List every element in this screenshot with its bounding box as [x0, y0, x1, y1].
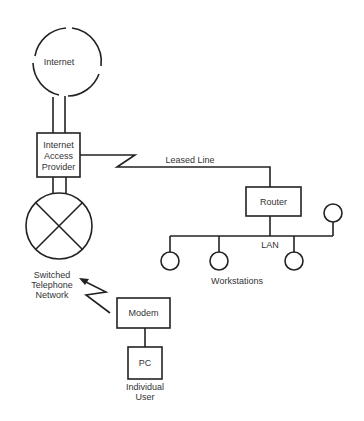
dialup-lightning-arrow: [79, 278, 110, 313]
router-node: Router: [246, 187, 301, 216]
iap-label-line-1: Internet: [43, 140, 74, 150]
pc-label: PC: [139, 358, 152, 368]
svg-text:User: User: [135, 392, 154, 402]
lan-label: LAN: [261, 240, 279, 250]
internet-arc-3: [68, 74, 99, 96]
internet-arc-1: [35, 28, 66, 56]
svg-text:Individual: Individual: [126, 382, 164, 392]
svg-text:Network: Network: [35, 290, 69, 300]
workstation-3: [285, 252, 303, 270]
leased-line: Leased Line: [80, 155, 270, 187]
svg-text:Telephone: Telephone: [31, 280, 73, 290]
internet-iap-link: [53, 96, 65, 133]
iap-label-line-2: Access: [44, 151, 74, 161]
switch-label: Switched Telephone Network: [31, 270, 73, 300]
iap-node: Internet Access Provider: [37, 133, 80, 177]
workstation-1: [161, 252, 179, 270]
iap-switch-link: [53, 177, 66, 193]
router-label: Router: [260, 197, 287, 207]
modem-node: Modem: [117, 298, 170, 328]
workstations-label: Workstations: [211, 276, 263, 286]
network-diagram: Internet Internet Access Provider Switch…: [0, 0, 364, 421]
svg-text:Switched: Switched: [34, 270, 71, 280]
pc-caption: Individual User: [126, 382, 164, 402]
internet-arc-4: [72, 28, 101, 66]
modem-label: Modem: [128, 308, 158, 318]
switch-node: [26, 193, 92, 259]
leased-line-label: Leased Line: [165, 155, 214, 165]
workstation-4: [324, 204, 342, 222]
internet-arc-2: [33, 63, 59, 95]
workstation-2: [210, 252, 228, 270]
internet-label: Internet: [44, 57, 75, 67]
pc-node: PC: [128, 347, 162, 379]
iap-label-line-3: Provider: [42, 162, 76, 172]
internet-node: Internet: [33, 28, 101, 96]
